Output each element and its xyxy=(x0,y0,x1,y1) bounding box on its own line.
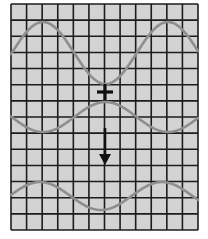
oscilloscope-diagram xyxy=(0,0,208,239)
